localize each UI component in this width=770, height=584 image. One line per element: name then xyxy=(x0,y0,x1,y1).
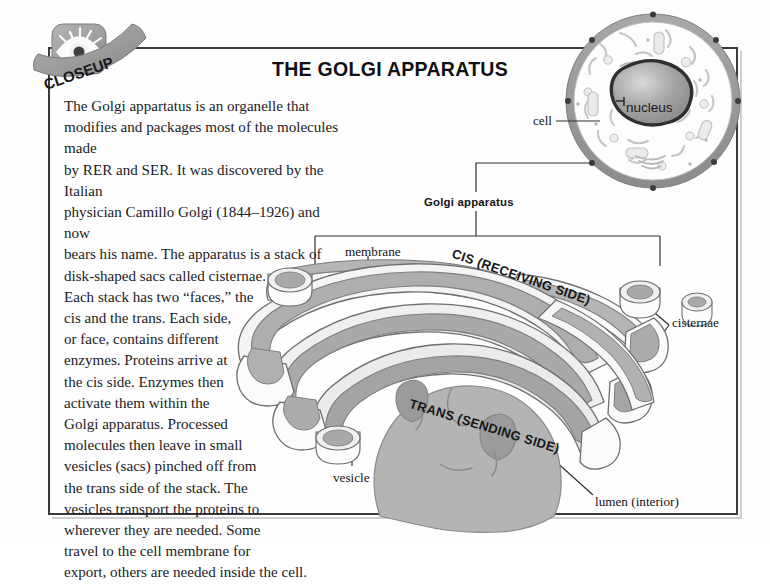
body-line: vesicles (sacs) pinched off from xyxy=(64,456,342,477)
body-line: bears his name. The apparatus is a stack… xyxy=(64,244,342,265)
body-line: export, others are needed inside the cel… xyxy=(64,562,342,583)
body-line: travel to the cell membrane for xyxy=(64,541,342,562)
body-paragraph: The Golgi appartatus is an organelle tha… xyxy=(64,96,342,584)
page-title: THE GOLGI APPARATUS xyxy=(190,58,590,81)
trans-cisterna-body xyxy=(374,380,561,532)
body-line: the trans side of the stack. The xyxy=(64,478,342,499)
body-line: wherever they are needed. Some xyxy=(64,520,342,541)
body-line: physician Camillo Golgi (1844–1926) and … xyxy=(64,202,342,244)
label-membrane: membrane xyxy=(345,244,401,260)
body-line: activate them within the xyxy=(64,393,342,414)
body-line: Each stack has two “faces,” the xyxy=(64,287,342,308)
label-cell: cell xyxy=(533,113,552,129)
label-vesicle: vesicle xyxy=(333,470,370,486)
label-nucleus: nucleus xyxy=(626,100,673,115)
body-line: enzymes. Proteins arrive at xyxy=(64,350,342,371)
vesicle xyxy=(620,281,660,318)
body-line: cis and the trans. Each side, xyxy=(64,308,342,329)
body-line: disk-shaped sacs called cisternae. xyxy=(64,266,342,287)
label-golgi-apparatus: Golgi apparatus xyxy=(424,196,514,208)
closeup-badge: CLOSEUP xyxy=(30,16,160,108)
body-line: vesicles transport the proteins to xyxy=(64,499,342,520)
body-line: the cis side. Enzymes then xyxy=(64,372,342,393)
label-lumen: lumen (interior) xyxy=(595,494,679,510)
body-line: or face, contains different xyxy=(64,329,342,350)
label-cisternae: cisternae xyxy=(672,315,719,331)
body-line: molecules then leave in small xyxy=(64,435,342,456)
body-line: Golgi apparatus. Processed xyxy=(64,414,342,435)
body-line: modifies and packages most of the molecu… xyxy=(64,117,342,159)
body-line: by RER and SER. It was discovered by the… xyxy=(64,160,342,202)
